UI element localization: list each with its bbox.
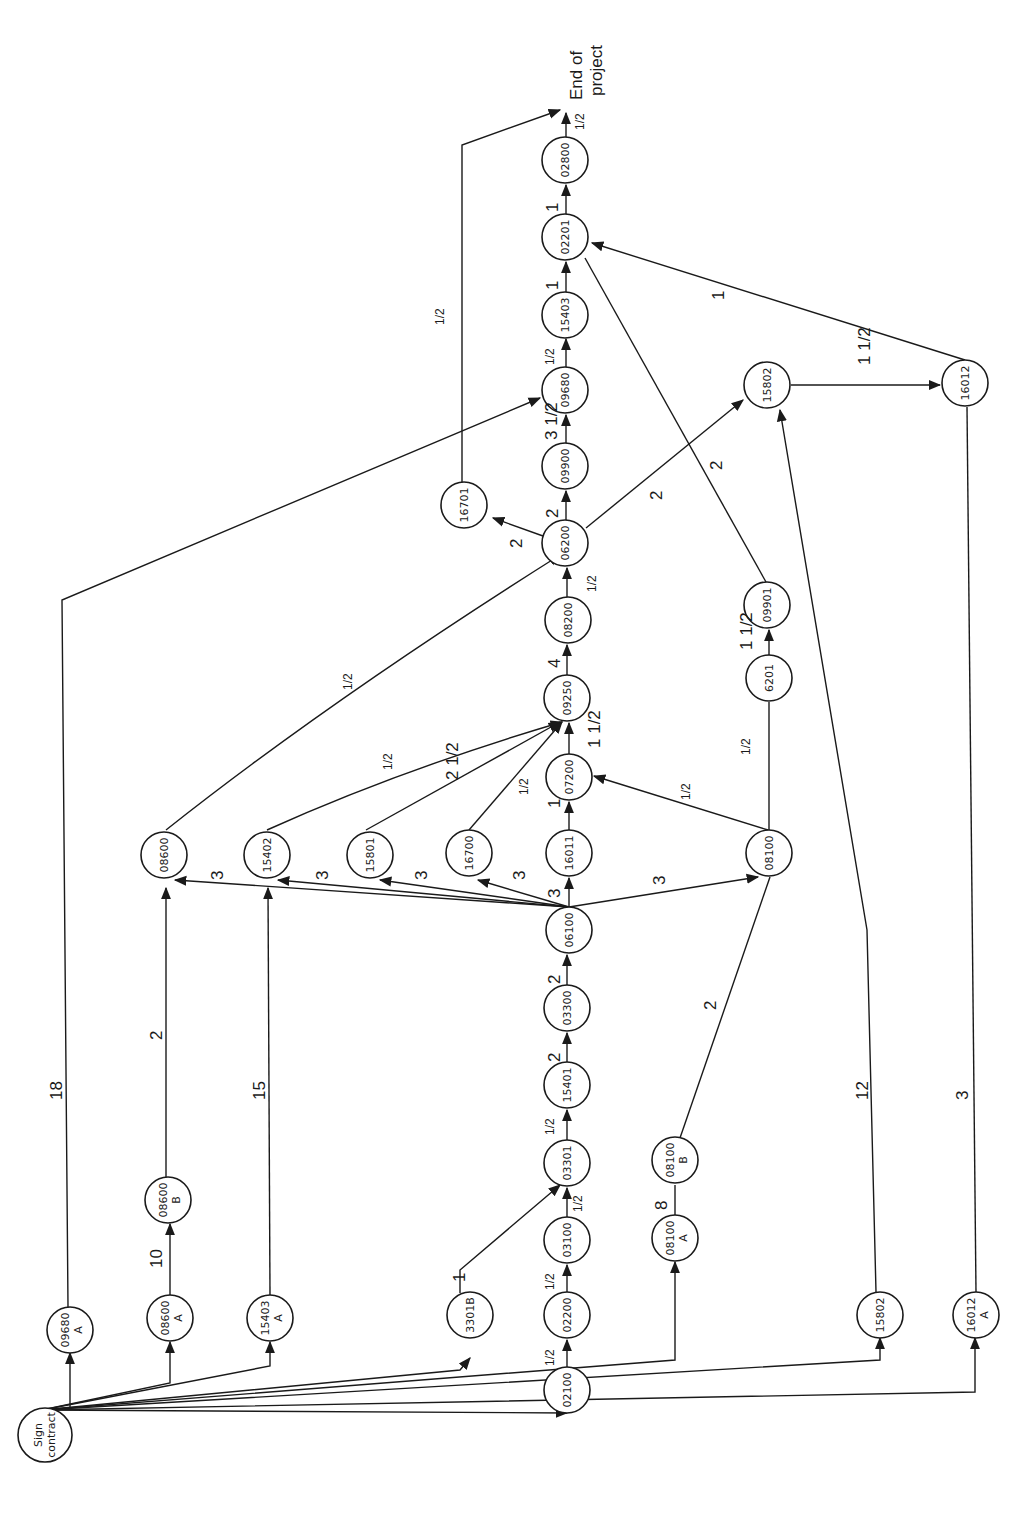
node-label: 08600: [157, 1183, 170, 1218]
duration-label: 2: [545, 1053, 564, 1062]
node-15403[interactable]: 15403: [542, 292, 588, 338]
node-label: 02100: [561, 1373, 574, 1408]
duration-label: 1/2: [433, 308, 447, 325]
node-sublabel: A: [272, 1314, 285, 1322]
node-label: 09901: [761, 588, 774, 623]
edge-08100B-08100: [680, 877, 770, 1138]
node-label: 16012: [965, 1298, 978, 1333]
end-of-project-label: End of project: [567, 45, 606, 100]
duration-label: 3: [510, 871, 529, 880]
node-label: 15401: [561, 1068, 574, 1103]
duration-label: 3: [412, 871, 431, 880]
node-02201[interactable]: 02201: [542, 214, 588, 260]
node-08100B[interactable]: 08100B: [652, 1137, 698, 1183]
edge-sign-02100: [42, 1410, 567, 1413]
node-label: 15801: [364, 838, 377, 873]
node-15802[interactable]: 15802: [744, 362, 790, 408]
duration-label: 1 1/2: [585, 710, 604, 748]
duration-label: 1 1/2: [855, 327, 874, 365]
node-label: 06100: [563, 913, 576, 948]
node-label: 15403: [259, 1301, 272, 1336]
duration-label: 3: [208, 871, 227, 880]
node-sign-contract[interactable]: Sign contract: [18, 1408, 72, 1462]
node-16701[interactable]: 16701: [441, 482, 487, 528]
node-16012A[interactable]: 16012A: [953, 1292, 999, 1338]
node-3301B[interactable]: 3301B: [447, 1292, 493, 1338]
node-06100[interactable]: 06100: [546, 907, 592, 953]
duration-label: 18: [47, 1081, 66, 1100]
node-03301[interactable]: 03301: [544, 1140, 590, 1186]
node-15401[interactable]: 15401: [544, 1062, 590, 1108]
duration-label: 1/2: [341, 673, 355, 690]
duration-label: 2: [707, 461, 726, 470]
node-08600A[interactable]: 08600A: [147, 1295, 193, 1341]
node-label: 06200: [559, 526, 572, 561]
edge-15802A-15802: [780, 410, 876, 1292]
node-02200[interactable]: 02200: [544, 1292, 590, 1338]
node-6201[interactable]: 6201: [746, 655, 792, 701]
duration-label: 1/2: [517, 778, 531, 795]
duration-label: 3: [313, 871, 332, 880]
duration-label: 1: [543, 203, 562, 212]
node-sublabel: A: [172, 1314, 185, 1322]
node-label: 08100: [664, 1221, 677, 1256]
node-09900[interactable]: 09900: [542, 443, 588, 489]
edge-16012A-16012: [967, 407, 976, 1292]
duration-label: 1/2: [543, 1349, 557, 1366]
node-15402[interactable]: 15402: [244, 832, 290, 878]
node-03100[interactable]: 03100: [544, 1217, 590, 1263]
duration-label: 3: [650, 876, 669, 885]
node-label: 03301: [561, 1146, 574, 1181]
duration-label: 2 1/2: [443, 742, 462, 780]
node-09250[interactable]: 09250: [544, 675, 590, 721]
node-label: 6201: [763, 664, 776, 692]
duration-label: 2: [701, 1001, 720, 1010]
node-sublabel: A: [677, 1234, 690, 1242]
duration-label: 2: [543, 509, 562, 518]
end-label-line1: End of: [567, 51, 586, 100]
node-08600[interactable]: 08600: [141, 832, 187, 878]
node-sublabel: B: [677, 1156, 690, 1164]
duration-label: 3: [545, 889, 564, 898]
node-label: 03300: [561, 991, 574, 1026]
duration-label: 1/2: [381, 753, 395, 770]
node-label: 15802: [761, 368, 774, 403]
node-03300[interactable]: 03300: [544, 985, 590, 1031]
node-08200[interactable]: 08200: [545, 597, 591, 643]
duration-label: 10: [147, 1249, 166, 1268]
duration-label: 1/2: [679, 783, 693, 800]
node-label: 08200: [562, 603, 575, 638]
node-label: 3301B: [464, 1297, 477, 1333]
node-02800[interactable]: 02800: [542, 137, 588, 183]
edge-sign-3301B: [42, 1358, 470, 1410]
node-sublabel: B: [170, 1196, 183, 1204]
node-15403A[interactable]: 15403A: [247, 1295, 293, 1341]
duration-label: 1/2: [585, 575, 599, 592]
node-16012[interactable]: 16012: [942, 360, 988, 406]
node-08100[interactable]: 08100: [746, 830, 792, 876]
duration-label: 1/2: [571, 1195, 585, 1212]
node-09680A[interactable]: 09680A: [47, 1307, 93, 1353]
node-label: 08600: [159, 1301, 172, 1336]
node-16700[interactable]: 16700: [446, 830, 492, 876]
node-15801[interactable]: 15801: [347, 832, 393, 878]
duration-label: 3: [953, 1091, 972, 1100]
node-08600B[interactable]: 08600B: [145, 1177, 191, 1223]
duration-label: 2: [147, 1031, 166, 1040]
node-06200[interactable]: 06200: [542, 520, 588, 566]
duration-label: 1: [543, 281, 562, 290]
node-label: 09680: [59, 1313, 72, 1348]
node-08100A[interactable]: 08100A: [652, 1215, 698, 1261]
duration-labels: 18 10 2 15 1 1/2 1/2 1/2 1/2 2 2 8 2 12 …: [47, 113, 972, 1366]
edge-06100-08600: [175, 880, 569, 907]
node-label: 15403: [559, 298, 572, 333]
node-16011[interactable]: 16011: [546, 830, 592, 876]
node-02100[interactable]: 02100: [544, 1367, 590, 1413]
duration-label: 15: [250, 1081, 269, 1100]
duration-label: 1/2: [543, 1273, 557, 1290]
node-label: 07200: [563, 760, 576, 795]
node-label: 02201: [559, 220, 572, 255]
node-15802-start[interactable]: 15802: [857, 1292, 903, 1338]
node-07200[interactable]: 07200: [546, 754, 592, 800]
duration-label: 1 1/2: [737, 612, 756, 650]
